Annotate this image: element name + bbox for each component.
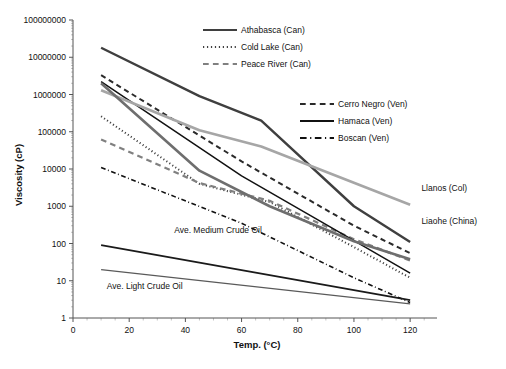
x-tick-label: 80 bbox=[293, 325, 303, 335]
viscosity-temperature-chart: 1101001000100001000001000000100000001000… bbox=[0, 0, 506, 369]
inline-label-liaohe-china: Liaohe (China) bbox=[421, 216, 477, 226]
y-tick-label: 1 bbox=[61, 313, 66, 323]
legend-label: Boscan (Ven) bbox=[338, 133, 389, 143]
y-tick-label: 1000 bbox=[47, 201, 66, 211]
chart-canvas: 1101001000100001000001000000100000001000… bbox=[0, 0, 506, 369]
x-tick-label: 100 bbox=[347, 325, 361, 335]
x-tick-label: 0 bbox=[71, 325, 76, 335]
y-axis-ticks: 1101001000100001000001000000100000001000… bbox=[23, 15, 73, 323]
inline-label-llanos-col: Llanos (Col) bbox=[421, 183, 467, 193]
y-tick-label: 100000000 bbox=[23, 15, 66, 25]
inline-label-ave-medium-crude-oil: Ave. Medium Crude Oil bbox=[174, 225, 262, 235]
x-tick-label: 40 bbox=[181, 325, 191, 335]
data-series-layer bbox=[101, 48, 410, 304]
y-axis-title: Viscosity (cP) bbox=[13, 144, 24, 206]
y-tick-label: 10 bbox=[57, 276, 67, 286]
x-tick-label: 60 bbox=[237, 325, 247, 335]
legend-venezuelan-oils: Cerro Negro (Ven)Hamaca (Ven)Boscan (Ven… bbox=[300, 99, 408, 143]
inline-series-labels: Llanos (Col)Liaohe (China)Ave. Medium Cr… bbox=[107, 183, 478, 291]
legend-canadian-oils: Athabasca (Can)Cold Lake (Can)Peace Rive… bbox=[203, 25, 311, 69]
x-axis-ticks: 020406080100120 bbox=[71, 318, 425, 335]
y-tick-label: 1000000 bbox=[33, 90, 66, 100]
legend-label: Hamaca (Ven) bbox=[338, 116, 392, 126]
y-tick-label: 10000 bbox=[42, 164, 66, 174]
legend-label: Athabasca (Can) bbox=[241, 25, 305, 35]
x-tick-label: 20 bbox=[124, 325, 134, 335]
x-axis-title: Temp. (°C) bbox=[234, 339, 281, 350]
legend-label: Peace River (Can) bbox=[241, 59, 311, 69]
y-tick-label: 100 bbox=[52, 239, 66, 249]
legend-label: Cerro Negro (Ven) bbox=[338, 99, 408, 109]
y-tick-label: 10000000 bbox=[28, 52, 66, 62]
x-tick-label: 120 bbox=[403, 325, 417, 335]
y-tick-label: 100000 bbox=[38, 127, 67, 137]
inline-label-ave-light-crude-oil: Ave. Light Crude Oil bbox=[107, 281, 183, 291]
legend-label: Cold Lake (Can) bbox=[241, 42, 303, 52]
